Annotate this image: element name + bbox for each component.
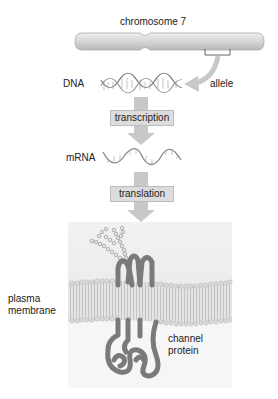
allele-label: allele — [210, 78, 233, 90]
dna-label: DNA — [63, 78, 84, 90]
mrna-label: mRNA — [66, 152, 95, 164]
transcription-step-box: transcription — [110, 110, 174, 126]
translation-step-box: translation — [110, 186, 174, 202]
plasma-membrane-label-line2: membrane — [8, 305, 56, 317]
plasma-membrane-label-line1: plasma — [8, 293, 40, 305]
chromosome-label: chromosome 7 — [120, 16, 186, 28]
dna-helix-icon — [101, 73, 182, 93]
chromosome-icon — [75, 33, 264, 50]
channel-protein-label-line2: protein — [168, 345, 199, 357]
channel-protein-label-line1: channel — [168, 333, 203, 345]
mrna-strand-icon — [103, 149, 181, 165]
